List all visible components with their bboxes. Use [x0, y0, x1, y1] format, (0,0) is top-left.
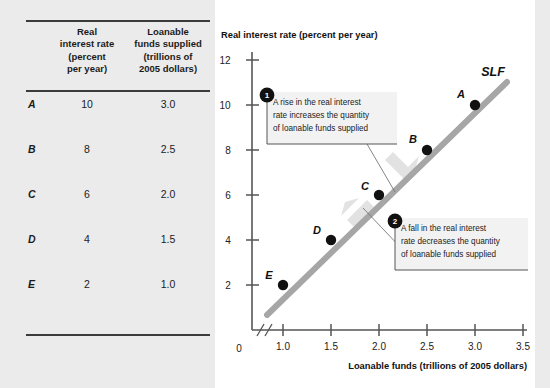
table-rule-bottom — [26, 334, 210, 336]
loanable-funds-table: Real interest rate (percent per year) Lo… — [26, 20, 210, 307]
table-header-row: Real interest rate (percent per year) Lo… — [26, 20, 210, 82]
chart-panel: Real interest rate (percent per year) 12… — [215, 0, 535, 388]
header-line: funds supplied — [126, 38, 210, 50]
y-tick-label: 10 — [219, 100, 231, 111]
row-interest-rate: 2 — [48, 262, 126, 307]
data-point-C — [374, 190, 384, 200]
x-tick-label: 1.0 — [276, 341, 290, 352]
table-header-point — [26, 20, 48, 82]
y-tick-label: 4 — [225, 235, 231, 246]
callout-1-leader-line — [367, 144, 395, 192]
callout-2-badge-number: 2 — [393, 217, 398, 226]
header-line: Real — [48, 26, 126, 38]
callout-1-line: rate increases the quantity — [273, 111, 370, 120]
table-row: A 10 3.0 — [26, 82, 210, 127]
header-line: Loanable — [126, 26, 210, 38]
row-point-label: E — [26, 262, 48, 307]
figure-root: Real interest rate (percent per year) Lo… — [0, 0, 550, 388]
table-row: D 4 1.5 — [26, 217, 210, 262]
x-axis-ticks: 1.0 1.5 2.0 2.5 3.0 3.5 — [276, 324, 530, 352]
y-axis-ticks: 12 10 8 6 4 2 — [219, 55, 259, 291]
row-interest-rate: 6 — [48, 172, 126, 217]
row-loanable-funds: 1.5 — [126, 217, 210, 262]
x-axis-title: Loanable funds (trillions of 2005 dollar… — [348, 361, 527, 371]
callout-2-line: of loanable funds supplied — [401, 250, 497, 259]
data-point-A — [470, 100, 480, 110]
x-tick-label: 1.5 — [324, 341, 338, 352]
data-point-D — [326, 235, 336, 245]
row-point-label: A — [26, 82, 48, 127]
x-tick-label: 3.5 — [516, 341, 530, 352]
row-interest-rate: 8 — [48, 127, 126, 172]
data-point-label-D: D — [313, 224, 321, 236]
callout-2-line: rate decreases the quantity — [401, 237, 501, 246]
header-line: (percent — [48, 51, 126, 63]
row-loanable-funds: 1.0 — [126, 262, 210, 307]
table-header-loanable-funds: Loanable funds supplied (trillions of 20… — [126, 20, 210, 82]
header-line: (trillions of — [126, 51, 210, 63]
callout-2: A fall in the real interest rate decreas… — [388, 214, 528, 270]
row-point-label: D — [26, 217, 48, 262]
data-point-E — [278, 280, 288, 290]
row-interest-rate: 4 — [48, 217, 126, 262]
origin-label: 0 — [236, 343, 242, 354]
callout-2-line: A fall in the real interest — [401, 224, 487, 233]
data-point-label-B: B — [409, 133, 417, 145]
table-row: C 6 2.0 — [26, 172, 210, 217]
table-row: B 8 2.5 — [26, 127, 210, 172]
x-tick-label: 2.5 — [420, 341, 434, 352]
callout-1-line: A rise in the real interest — [273, 98, 362, 107]
x-tick-label: 3.0 — [468, 341, 482, 352]
data-point-label-C: C — [361, 180, 370, 192]
callout-1-line: of loanable funds supplied — [273, 124, 369, 133]
data-table-panel: Real interest rate (percent per year) Lo… — [0, 0, 215, 388]
row-interest-rate: 10 — [48, 82, 126, 127]
slf-curve-label: SLF — [481, 65, 505, 79]
supply-of-loanable-funds-chart: Real interest rate (percent per year) 12… — [215, 0, 535, 388]
header-line: interest rate — [48, 38, 126, 50]
header-line: per year) — [48, 63, 126, 75]
y-tick-label: 12 — [219, 55, 231, 66]
y-tick-label: 2 — [225, 280, 231, 291]
table-header-interest-rate: Real interest rate (percent per year) — [48, 20, 126, 82]
callout-1-badge-number: 1 — [265, 91, 270, 100]
data-point-label-A: A — [456, 88, 465, 100]
row-loanable-funds: 2.5 — [126, 127, 210, 172]
row-loanable-funds: 2.0 — [126, 172, 210, 217]
header-line: 2005 dollars) — [126, 63, 210, 75]
y-tick-label: 8 — [225, 145, 231, 156]
row-point-label: C — [26, 172, 48, 217]
data-point-label-E: E — [265, 269, 273, 281]
data-point-B — [422, 145, 432, 155]
table-body: A 10 3.0 B 8 2.5 C 6 2.0 D 4 1.5 — [26, 82, 210, 307]
row-loanable-funds: 3.0 — [126, 82, 210, 127]
table-row: E 2 1.0 — [26, 262, 210, 307]
y-axis-title: Real interest rate (percent per year) — [221, 30, 378, 40]
y-tick-label: 6 — [225, 190, 231, 201]
callout-1: A rise in the real interest rate increas… — [260, 88, 397, 144]
x-tick-label: 2.0 — [372, 341, 386, 352]
row-point-label: B — [26, 127, 48, 172]
